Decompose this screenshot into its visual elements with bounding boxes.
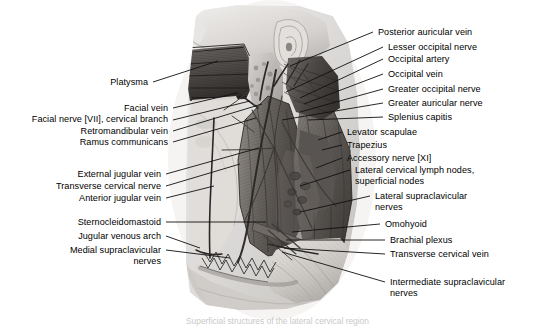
label-intermediate-supraclavicular-nerves[interactable]: Intermediate supraclavicular nerves [390,277,505,300]
label-omohyoid-text: Omohyoid [385,219,427,229]
leader-lateral-cervical-lymph-nodes [300,170,350,186]
label-lateral-cervical-lymph-nodes[interactable]: Lateral cervical lymph nodes, superficia… [355,165,474,188]
label-trapezius[interactable]: Trapezius [347,140,387,151]
leader-retromandibular-vein [173,104,262,131]
label-greater-occipital-nerve[interactable]: Greater occipital nerve [388,84,481,95]
leader-facial-vein [173,93,237,108]
label-posterior-auricular-vein-text: Posterior auricular vein [378,27,472,37]
leader-intermediate-supraclavicular-nerves [282,252,385,282]
leader-omohyoid [292,224,380,232]
label-splenius-capitis-text: Splenius capitis [388,112,452,122]
label-occipital-artery[interactable]: Occipital artery [388,54,449,65]
label-medial-supraclavicular-nerves-text2: nerves [70,256,161,267]
leader-lateral-supraclavicular-nerves [300,196,370,212]
label-greater-auricular-nerve[interactable]: Greater auricular nerve [388,98,483,109]
label-sternocleidomastoid-text: Sternocleidomastoid [78,217,161,227]
leader-levator-scapulae [318,132,342,140]
label-sternocleidomastoid[interactable]: Sternocleidomastoid [78,217,161,228]
label-brachial-plexus[interactable]: Brachial plexus [390,235,452,246]
leader-platysma [153,61,218,82]
label-jugular-venous-arch-text: Jugular venous arch [78,231,161,241]
label-accessory-nerve-xi-text: Accessory nerve [XI] [347,153,431,163]
label-anterior-jugular-vein[interactable]: Anterior jugular vein [79,193,161,204]
label-posterior-auricular-vein[interactable]: Posterior auricular vein [378,27,472,38]
leader-lesser-occipital-nerve [286,47,383,92]
label-facial-nerve-vii-text: Facial nerve [VII], cervical branch [32,114,168,124]
label-jugular-venous-arch[interactable]: Jugular venous arch [78,231,161,242]
label-greater-occipital-nerve-text: Greater occipital nerve [388,84,481,94]
leader-external-jugular-vein [166,148,259,174]
label-trapezius-text: Trapezius [347,140,387,150]
leader-trapezius [322,145,342,150]
label-occipital-artery-text: Occipital artery [388,54,449,64]
label-ramus-communicans[interactable]: Ramus communicans [80,137,168,148]
label-lesser-occipital-nerve-text: Lesser occipital nerve [388,42,477,52]
leader-posterior-auricular-vein [290,32,373,66]
leader-transverse-cervical-vein [284,248,385,254]
anatomy-plate: Platysma Facial vein Facial nerve [VII],… [0,0,543,326]
leader-greater-auricular-nerve [282,103,383,120]
leader-occipital-artery [300,59,383,98]
leader-jugular-venous-arch [166,236,200,248]
label-anterior-jugular-vein-text: Anterior jugular vein [79,193,161,203]
label-occipital-vein-text: Occipital vein [388,69,443,79]
label-retromandibular-vein-text: Retromandibular vein [81,126,168,136]
label-lateral-supraclavicular-nerves[interactable]: Lateral supraclavicular nerves [375,191,467,214]
label-intermediate-supraclavicular-nerves-text2: nerves [390,288,505,299]
label-external-jugular-vein[interactable]: External jugular vein [78,169,161,180]
label-transverse-cervical-vein[interactable]: Transverse cervical vein [390,249,489,260]
leader-greater-occipital-nerve [300,89,383,112]
label-medial-supraclavicular-nerves[interactable]: Medial supraclavicular nerves [70,245,161,268]
label-accessory-nerve-xi[interactable]: Accessory nerve [XI] [347,153,431,164]
label-facial-nerve-vii[interactable]: Facial nerve [VII], cervical branch [32,114,168,125]
figure-caption: Superficial structures of the lateral ce… [186,316,543,326]
leader-anterior-jugular-vein [166,186,214,198]
label-lesser-occipital-nerve[interactable]: Lesser occipital nerve [388,42,477,53]
label-lateral-supraclavicular-nerves-text: Lateral supraclavicular [375,191,467,201]
leader-medial-supraclavicular-nerves [166,250,230,258]
label-occipital-vein[interactable]: Occipital vein [388,69,443,80]
leader-splenius-capitis [308,117,383,120]
label-levator-scapulae[interactable]: Levator scapulae [347,127,417,138]
label-external-jugular-vein-text: External jugular vein [78,169,161,179]
label-brachial-plexus-text: Brachial plexus [390,235,452,245]
leader-facial-nerve-vii [173,101,250,120]
label-splenius-capitis[interactable]: Splenius capitis [388,112,452,123]
label-platysma[interactable]: Platysma [110,77,148,88]
leader-occipital-vein [304,74,383,104]
label-omohyoid[interactable]: Omohyoid [385,219,427,230]
leader-transverse-cervical-nerve [166,164,240,186]
label-lateral-cervical-lymph-nodes-text: Lateral cervical lymph nodes, [355,165,474,175]
label-medial-supraclavicular-nerves-text: Medial supraclavicular [70,245,161,255]
label-transverse-cervical-vein-text: Transverse cervical vein [390,249,489,259]
label-transverse-cervical-nerve-text: Transverse cervical nerve [56,181,161,191]
label-greater-auricular-nerve-text: Greater auricular nerve [388,98,483,108]
label-ramus-communicans-text: Ramus communicans [80,137,168,147]
label-facial-vein-text: Facial vein [124,103,168,113]
leader-ramus-communicans [173,118,256,142]
label-facial-vein[interactable]: Facial vein [124,103,168,114]
label-lateral-cervical-lymph-nodes-text2: superficial nodes [355,176,474,187]
label-retromandibular-vein[interactable]: Retromandibular vein [81,126,168,137]
leader-accessory-nerve-xi [316,158,342,168]
label-levator-scapulae-text: Levator scapulae [347,127,417,137]
label-platysma-text: Platysma [110,77,148,87]
label-transverse-cervical-nerve[interactable]: Transverse cervical nerve [56,181,161,192]
label-intermediate-supraclavicular-nerves-text: Intermediate supraclavicular [390,277,505,287]
label-lateral-supraclavicular-nerves-text2: nerves [375,202,467,213]
